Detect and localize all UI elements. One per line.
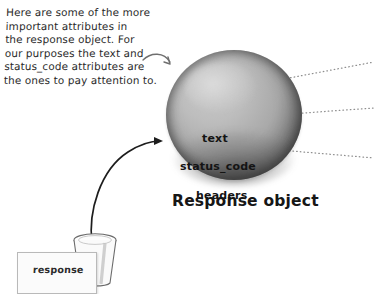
sphere-shading bbox=[174, 131, 294, 186]
annotation-note: Here are some of the more important attr… bbox=[4, 6, 172, 88]
attribute-label-text: text bbox=[202, 132, 228, 145]
sphere-highlight bbox=[185, 63, 256, 112]
flow-arrow-icon bbox=[91, 137, 163, 243]
response-card-label: response bbox=[33, 264, 84, 275]
attribute-label-status-code: status_code bbox=[180, 160, 256, 173]
response-object-sphere: text status_code headers bbox=[166, 50, 302, 180]
response-card: response bbox=[17, 252, 97, 294]
figure-caption: Response object bbox=[172, 192, 319, 210]
